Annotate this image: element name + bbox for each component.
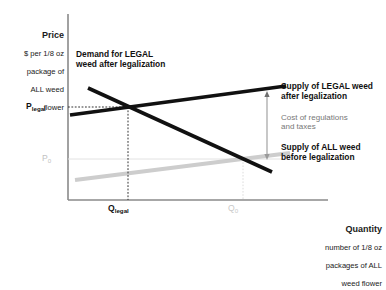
quantity-zero-tick-sub: 0 bbox=[235, 207, 238, 214]
y-axis-title-line-3: ALL weed bbox=[31, 85, 65, 94]
x-axis-title-line-2: packages of ALL bbox=[326, 261, 382, 270]
price-legal-tick-main: P bbox=[26, 101, 32, 111]
x-axis-title-line-3: weed flower bbox=[341, 279, 382, 288]
y-axis-title-line-4: flower bbox=[44, 103, 64, 112]
demand-curve-label: Demand for LEGAL weed after legalization bbox=[76, 50, 165, 70]
supply-legal-curve-label: Supply of LEGAL weed after legalization bbox=[281, 82, 373, 102]
cost-wedge-label: Cost of regulations and taxes bbox=[281, 113, 348, 132]
price-legal-tick-sub: legal bbox=[32, 105, 46, 112]
price-zero-tick-sub: 0 bbox=[48, 157, 51, 164]
supply-legal-curve bbox=[70, 86, 286, 115]
y-axis-title-line-2: package of bbox=[27, 67, 64, 76]
cost-wedge-arrow bbox=[264, 91, 269, 160]
quantity-legal-tick-label: Qlegal bbox=[108, 203, 129, 213]
quantity-legal-tick-main: Q bbox=[108, 203, 115, 213]
y-axis-title-main: Price bbox=[4, 30, 64, 41]
price-legal-tick-label: Plegal bbox=[26, 101, 46, 111]
supply-all-curve-label: Supply of ALL weed before legalization bbox=[281, 143, 361, 163]
quantity-legal-tick-sub: legal bbox=[115, 207, 129, 214]
price-zero-tick-label: P0 bbox=[42, 153, 51, 163]
y-axis-title-line-1: $ per 1/8 oz bbox=[24, 49, 64, 58]
x-axis-title-main: Quantity bbox=[276, 224, 382, 235]
quantity-zero-tick-main: Q bbox=[228, 203, 235, 213]
x-axis-title-line-1: number of 1/8 oz bbox=[325, 243, 382, 252]
quantity-zero-tick-label: Q0 bbox=[228, 203, 238, 213]
x-axis-title: Quantity number of 1/8 oz packages of AL… bbox=[276, 206, 382, 290]
price-zero-tick-main: P bbox=[42, 153, 48, 163]
